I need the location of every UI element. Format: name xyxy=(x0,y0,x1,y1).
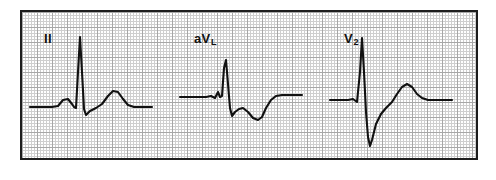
lead-label-v2-text: V xyxy=(344,31,353,46)
lead-label-avl: aVL xyxy=(194,32,216,45)
ecg-waveform-path-lead-v2 xyxy=(330,38,452,146)
ecg-trace-lead-avl xyxy=(180,60,302,120)
ecg-waveform-path-lead-ii xyxy=(30,37,152,115)
lead-label-v2-subscript: 2 xyxy=(353,37,358,47)
ecg-waveform-path-lead-avl xyxy=(180,60,302,120)
lead-label-ii: II xyxy=(44,32,52,45)
ecg-trace-layer xyxy=(22,12,476,158)
ecg-trace-lead-ii xyxy=(30,37,152,115)
lead-label-ii-text: II xyxy=(44,31,52,46)
lead-label-avl-text: aV xyxy=(194,31,211,46)
ecg-grid-paper: II aVL V2 xyxy=(20,10,478,160)
lead-label-v2: V2 xyxy=(344,32,358,45)
ecg-figure: II aVL V2 xyxy=(0,0,496,180)
ecg-trace-lead-v2 xyxy=(330,38,452,146)
lead-label-avl-subscript: L xyxy=(211,37,217,47)
